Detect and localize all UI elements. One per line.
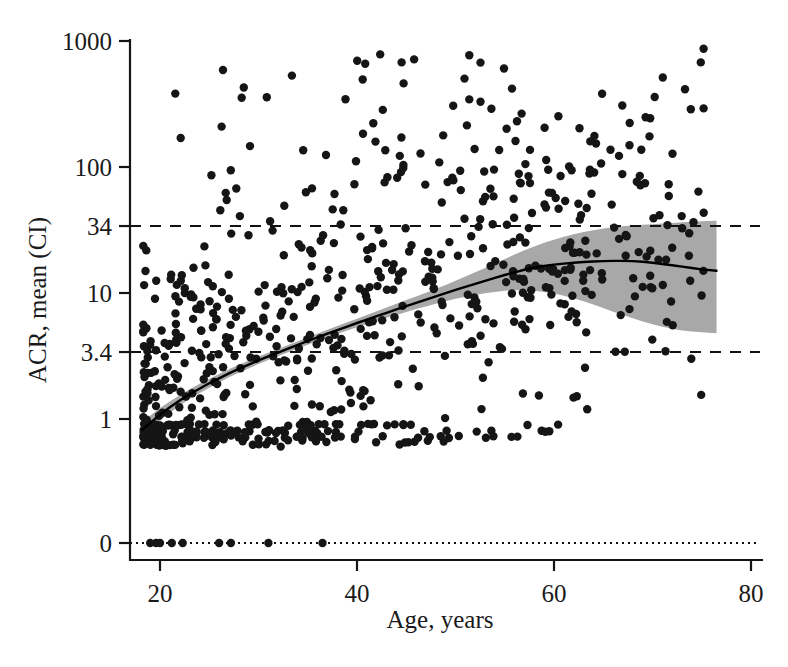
data-point [399, 420, 407, 428]
data-point [476, 215, 484, 223]
data-point [329, 344, 337, 352]
data-point [561, 277, 569, 285]
data-point [324, 427, 332, 435]
data-point [337, 377, 345, 385]
data-point [678, 224, 686, 232]
data-point [212, 315, 220, 323]
data-point [308, 354, 316, 362]
data-point [352, 157, 360, 165]
data-point [430, 284, 438, 292]
data-point [610, 223, 618, 231]
data-point [573, 318, 581, 326]
data-point [187, 293, 195, 301]
data-point [242, 327, 250, 335]
data-point [651, 93, 659, 101]
data-point [332, 366, 340, 374]
data-point [439, 131, 447, 139]
data-point [139, 328, 147, 336]
data-point [699, 104, 707, 112]
data-point [535, 391, 543, 399]
data-point [572, 310, 580, 318]
data-point [379, 239, 387, 247]
data-point [171, 292, 179, 300]
data-point [689, 218, 697, 226]
data-point [662, 256, 670, 264]
data-point [359, 386, 367, 394]
data-point [394, 346, 402, 354]
data-point [645, 132, 653, 140]
data-point [200, 242, 208, 250]
data-point [629, 274, 637, 282]
data-point [434, 265, 442, 273]
data-point [642, 252, 650, 260]
data-point [546, 321, 554, 329]
data-point [467, 232, 475, 240]
data-point [636, 172, 644, 180]
data-point [377, 273, 385, 281]
data-point [218, 288, 226, 296]
data-point [502, 125, 510, 133]
data-point [455, 321, 463, 329]
data-point [239, 437, 247, 445]
data-point [203, 369, 211, 377]
data-point [687, 355, 695, 363]
data-point [380, 178, 388, 186]
data-point [322, 438, 330, 446]
data-point [308, 400, 316, 408]
data-point [293, 433, 301, 441]
data-point [297, 283, 305, 291]
data-point [381, 146, 389, 154]
data-point [663, 318, 671, 326]
data-point [238, 94, 246, 102]
data-point [266, 333, 274, 341]
data-point [330, 239, 338, 247]
data-point [359, 130, 367, 138]
data-point [143, 347, 151, 355]
data-point [368, 243, 376, 251]
data-point [582, 328, 590, 336]
data-point [249, 402, 257, 410]
data-point [399, 267, 407, 275]
data-point [424, 437, 432, 445]
data-point [621, 348, 629, 356]
data-point [449, 102, 457, 110]
data-point [188, 404, 196, 412]
data-point [477, 405, 485, 413]
data-point [246, 381, 254, 389]
data-point [140, 359, 148, 367]
data-point [140, 281, 148, 289]
data-point [476, 58, 484, 66]
data-point [262, 440, 270, 448]
data-point [519, 275, 527, 283]
x-axis-tick-labels: 20406080 [148, 580, 764, 607]
data-point [397, 133, 405, 141]
data-point [201, 261, 209, 269]
x-tick-label-40: 40 [345, 580, 370, 607]
data-point [441, 352, 449, 360]
data-point [341, 95, 349, 103]
data-point [542, 156, 550, 164]
data-point [317, 237, 325, 245]
data-point [356, 232, 364, 240]
data-point [361, 60, 369, 68]
data-point [330, 190, 338, 198]
data-point [290, 313, 298, 321]
data-point [486, 185, 494, 193]
data-point [464, 291, 472, 299]
data-point [687, 105, 695, 113]
data-point [264, 539, 272, 547]
data-point [263, 428, 271, 436]
data-point [350, 180, 358, 188]
data-point [291, 376, 299, 384]
data-point [170, 370, 178, 378]
data-point [357, 325, 365, 333]
data-point [523, 421, 531, 429]
data-point [490, 165, 498, 173]
data-point [232, 313, 240, 321]
data-point [279, 426, 287, 434]
data-point [263, 93, 271, 101]
data-point [556, 299, 564, 307]
data-point [569, 249, 577, 257]
data-point [347, 399, 355, 407]
data-point [318, 539, 326, 547]
